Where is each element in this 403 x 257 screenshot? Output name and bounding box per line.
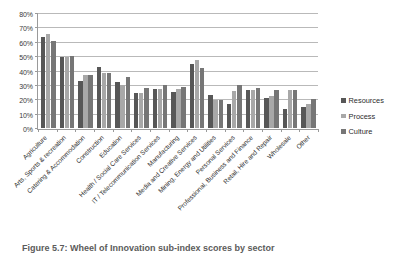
bar-group [113,14,132,128]
y-axis-tick [35,71,38,72]
x-axis-tick [206,129,207,132]
bar [88,75,92,128]
y-axis-tick-label: 10% [19,111,33,118]
bar-group [244,14,263,128]
chart-legend: ResourcesProcessCulture [341,96,384,136]
bar [126,77,130,128]
bar [139,93,143,128]
bar-groups [39,14,318,128]
bar [251,90,255,128]
legend-label: Culture [349,127,373,136]
bar [208,95,212,128]
figure-caption: Figure 5.7: Wheel of Innovation sub-inde… [22,243,275,253]
y-axis-tick [35,56,38,57]
bar-group [225,14,244,128]
bar [102,73,106,128]
bar [46,34,50,128]
bar [195,60,199,128]
x-axis-tick [225,129,226,132]
plot-area-wrapper: 0%10%20%30%40%50%60%70%80% [37,14,318,130]
bar [269,96,273,128]
bar-group [169,14,188,128]
bar-group [299,14,318,128]
legend-label: Resources [349,96,384,105]
bar-group [95,14,114,128]
bar [237,85,241,128]
y-axis-tick [35,99,38,100]
legend-swatch-icon [341,98,346,103]
x-axis-tick [75,129,76,132]
bar [301,107,305,128]
bar [246,90,250,128]
bar-group [262,14,281,128]
bar [288,90,292,128]
x-axis-tick [281,129,282,132]
plot-area: 0%10%20%30%40%50%60%70%80% [37,14,318,130]
y-axis-tick [35,27,38,28]
bar [83,75,87,128]
bar [41,37,45,128]
y-axis-tick-label: 70% [19,25,33,32]
bar [171,92,175,128]
y-axis-tick-label: 30% [19,82,33,89]
bar [219,100,223,129]
y-axis-tick-label: 60% [19,39,33,46]
bar [51,41,55,128]
x-axis-tick [94,129,95,132]
bar-group [188,14,207,128]
x-axis-tick [187,129,188,132]
bar [78,81,82,128]
bar [176,89,180,128]
y-axis-tick [35,42,38,43]
bar [306,104,310,128]
x-axis-tick [57,129,58,132]
x-axis-tick [150,129,151,132]
bar [181,87,185,128]
y-axis-tick-label: 0% [23,126,33,133]
bar [134,93,138,128]
bar [97,67,101,128]
bar [190,64,194,128]
bar-group [281,14,300,128]
bar-group [76,14,95,128]
legend-swatch-icon [341,129,346,134]
bar [232,91,236,128]
bar [274,90,278,128]
legend-item[interactable]: Process [341,112,384,121]
x-axis-tick [318,129,319,132]
bar [120,85,124,128]
bar [293,90,297,128]
legend-item[interactable]: Resources [341,96,384,105]
legend-swatch-icon [341,114,346,119]
legend-item[interactable]: Culture [341,127,384,136]
y-axis-tick-label: 50% [19,54,33,61]
bar-group [132,14,151,128]
bar [144,88,148,128]
x-axis-tick [113,129,114,132]
y-axis-tick-label: 20% [19,97,33,104]
x-axis-tick [169,129,170,132]
bar-group [151,14,170,128]
legend-label: Process [349,112,376,121]
bar [115,82,119,128]
y-axis-tick [35,85,38,86]
bar [163,85,167,128]
bar [153,89,157,128]
bar [213,100,217,128]
bar-group [58,14,77,128]
bar [283,109,287,128]
bar [60,57,64,128]
bar [256,88,260,128]
bar-group [39,14,58,128]
y-axis-tick [35,13,38,14]
bar [227,104,231,128]
bar-group [206,14,225,128]
x-axis-tick [38,129,39,132]
bar [200,68,204,128]
bar [311,99,315,128]
y-axis-tick-label: 80% [19,11,33,18]
bar [107,73,111,128]
bar [264,98,268,128]
bar [70,56,74,128]
